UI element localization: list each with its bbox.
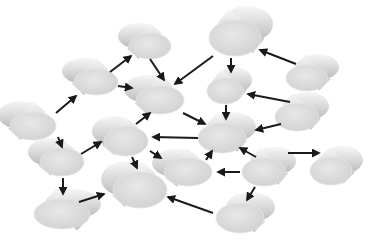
node-face — [209, 20, 261, 56]
edge-arrow-n3-to-n1 — [110, 56, 131, 72]
node-face — [129, 33, 171, 59]
node-face — [40, 148, 84, 176]
edge-arrow-n10-to-n9 — [153, 137, 198, 138]
node-face — [216, 203, 264, 233]
node-face — [286, 65, 328, 91]
edge-arrow-n8-to-n10 — [256, 124, 281, 130]
node-n7 — [0, 101, 56, 140]
node-n14 — [310, 146, 363, 185]
edge-arrow-n9-to-n4 — [136, 113, 150, 124]
node-n5 — [207, 67, 252, 104]
node-face — [113, 172, 167, 208]
node-face — [104, 126, 148, 156]
node-n16 — [34, 188, 101, 230]
node-face — [74, 69, 118, 95]
edge-arrow-n4-to-n10 — [183, 113, 205, 124]
edge-arrow-n11-to-n9 — [81, 142, 101, 154]
edge-arrow-n12-to-n10 — [206, 151, 212, 160]
network-diagram — [0, 0, 372, 245]
node-face — [164, 158, 212, 186]
node-face — [310, 157, 352, 185]
node-n3 — [62, 58, 118, 95]
node-n6 — [286, 54, 339, 91]
edge-arrow-n7-to-n3 — [56, 96, 76, 113]
node-n8 — [275, 92, 329, 131]
node-face — [136, 86, 184, 114]
node-n2 — [209, 6, 273, 56]
node-face — [10, 112, 56, 140]
node-n1 — [118, 23, 171, 59]
edge-arrow-n17-to-n15 — [168, 197, 213, 213]
node-face — [242, 158, 286, 186]
edge-arrow-n6-to-n2 — [260, 50, 296, 64]
node-face — [207, 78, 243, 104]
node-n4 — [124, 75, 184, 114]
edge-arrow-n8-to-n5 — [248, 94, 290, 102]
node-n17 — [216, 192, 275, 233]
nodes-layer — [0, 6, 363, 233]
node-face — [198, 123, 246, 153]
node-face — [275, 103, 319, 131]
edge-arrow-n13-to-n10 — [240, 148, 256, 157]
node-face — [34, 199, 90, 229]
edge-arrow-n2-to-n4 — [175, 56, 213, 84]
node-n11 — [28, 138, 84, 176]
